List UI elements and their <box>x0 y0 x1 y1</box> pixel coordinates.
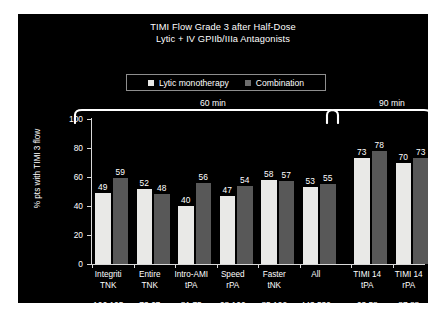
bar-1-mono <box>137 189 153 264</box>
n-count-1: 73 67 <box>131 300 170 303</box>
n-count-2: 81 75 <box>172 300 211 303</box>
legend-swatch-icon-combo <box>245 80 251 86</box>
bar-value-label-5-combo: 55 <box>317 173 339 183</box>
y-axis-title: % pts with TIMI 3 flow <box>33 114 42 224</box>
bar-1-combo <box>154 194 170 264</box>
bar-6-mono <box>354 158 370 264</box>
bar-3-mono <box>220 196 236 264</box>
x-axis-category-line2-2: tPA <box>172 281 211 292</box>
x-axis-category-label-6: TIMI 14tPA <box>348 270 387 291</box>
group-label-60-min: 60 min <box>88 98 338 108</box>
bar-value-label-6-combo: 78 <box>369 140 391 150</box>
y-axis-tick-label-100: 100 <box>61 114 83 124</box>
x-axis-category-label-0: IntegritiTNK <box>89 270 128 291</box>
y-axis-tick-label-0: 0 <box>61 259 83 269</box>
x-axis-category-line1-1: Entire <box>139 270 160 279</box>
bar-7-mono <box>396 163 412 265</box>
y-axis-tick-label-80: 80 <box>61 143 83 153</box>
n-count-3: 98 100 <box>214 300 253 303</box>
x-axis-category-line1-6: TIMI 14 <box>353 270 381 279</box>
slide-root: TIMI Flow Grade 3 after Half-Dose Lytic … <box>0 0 444 319</box>
chart-title-line1: TIMI Flow Grade 3 after Half-Dose <box>150 22 295 32</box>
bar-6-combo <box>372 151 388 264</box>
x-axis-category-label-1: EntireTNK <box>131 270 170 291</box>
x-axis-category-label-7: TIMI 14rPA <box>390 270 429 291</box>
x-axis-category-line1-7: TIMI 14 <box>395 270 423 279</box>
x-axis-category-label-5: All <box>297 270 336 281</box>
bar-value-label-0-mono: 49 <box>92 182 114 192</box>
x-axis-tick-6 <box>351 264 352 268</box>
legend-swatch-icon-mono <box>148 80 154 86</box>
x-axis-tick-7 <box>393 264 394 268</box>
legend-label-mono: Lytic monotherapy <box>159 78 229 88</box>
group-label-90-min: 90 min <box>338 98 428 108</box>
x-axis-category-label-4: FastertNK <box>255 270 294 291</box>
bar-value-label-7-combo: 73 <box>410 147 428 157</box>
chart-panel: TIMI Flow Grade 3 after Half-Dose Lytic … <box>18 14 428 303</box>
bar-0-mono <box>95 193 111 264</box>
x-axis-category-line1-5: All <box>311 270 320 279</box>
bar-value-label-4-combo: 57 <box>276 170 298 180</box>
x-axis-tick-3 <box>217 264 218 268</box>
bar-2-combo <box>196 183 212 264</box>
x-axis-category-line2-1: TNK <box>131 281 170 292</box>
n-count-6: 63 58 <box>348 300 387 303</box>
chart-title-line2: Lytic + IV GPIIb/IIIa Antagonists <box>18 33 428 45</box>
bar-7-combo <box>413 158 428 264</box>
bar-3-combo <box>237 186 253 264</box>
x-axis-tick-5 <box>300 264 301 268</box>
legend-label-combo: Combination <box>256 78 304 88</box>
bar-value-label-1-combo: 48 <box>151 183 173 193</box>
bar-5-combo <box>320 184 336 264</box>
bar-4-combo <box>279 181 295 264</box>
x-axis-tick-4 <box>258 264 259 268</box>
bar-value-label-2-combo: 56 <box>193 172 215 182</box>
x-axis-category-line1-2: Intro-AMI <box>174 270 208 279</box>
bar-value-label-3-mono: 47 <box>217 185 239 195</box>
x-axis-category-line2-7: rPA <box>390 281 429 292</box>
x-axis-category-line1-4: Faster <box>263 270 286 279</box>
bar-value-label-0-combo: 59 <box>110 167 132 177</box>
x-axis-tick-2 <box>175 264 176 268</box>
x-axis-category-label-3: SpeedrPA <box>214 270 253 291</box>
y-axis-tick-label-60: 60 <box>61 172 83 182</box>
y-axis-tick-label-40: 40 <box>61 201 83 211</box>
bar-value-label-2-mono: 40 <box>175 195 197 205</box>
n-count-0: 106 105 <box>89 300 128 303</box>
x-axis-category-line2-3: rPA <box>214 281 253 292</box>
legend-item-lytic-monotherapy: Lytic monotherapy <box>148 78 229 88</box>
x-axis-category-line1-3: Speed <box>221 270 245 279</box>
legend-item-combination: Combination <box>245 78 304 88</box>
chart-legend: Lytic monotherapy Combination <box>126 74 326 91</box>
bar-value-label-3-combo: 54 <box>234 175 256 185</box>
x-axis-category-label-2: Intro-AMItPA <box>172 270 211 291</box>
x-axis-category-line1-0: Integriti <box>95 270 122 279</box>
chart-title: TIMI Flow Grade 3 after Half-Dose Lytic … <box>18 21 428 45</box>
y-axis-tick-label-20: 20 <box>61 230 83 240</box>
x-axis-category-line2-0: TNK <box>89 281 128 292</box>
x-axis-tick-0 <box>92 264 93 268</box>
bar-0-combo <box>113 178 129 264</box>
n-count-4: 85 192 <box>255 300 294 303</box>
x-axis-category-line2-6: tPA <box>348 281 387 292</box>
bar-4-mono <box>261 180 277 264</box>
x-axis-category-line2-4: tNK <box>255 281 294 292</box>
n-count-5: 443 539 <box>297 300 336 303</box>
bar-5-mono <box>303 187 319 264</box>
n-count-7: 87 88 <box>390 300 429 303</box>
bar-2-mono <box>178 206 194 264</box>
x-axis-tick-1 <box>134 264 135 268</box>
